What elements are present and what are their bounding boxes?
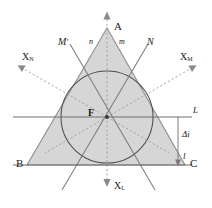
figure-canvas: [0, 0, 212, 208]
label-axis-xl: XL: [114, 181, 125, 191]
label-center-f: F: [88, 108, 94, 118]
label-axis-xl-subscript: L: [121, 185, 125, 191]
label-vertex-a: A: [114, 21, 122, 32]
label-line-n-small: n: [89, 38, 93, 46]
label-line-m-small: m: [119, 38, 125, 46]
label-axis-l-bottom: l: [183, 152, 186, 161]
label-line-n-capital: N: [147, 37, 154, 47]
arrowhead-up-icon: [103, 12, 110, 20]
geometric-diagram: A B C F n m M′ N L l Δi XN XM XL: [0, 0, 212, 208]
label-axis-L-top: L: [193, 106, 198, 115]
arrowhead-down-xl-icon: [103, 179, 110, 187]
label-line-m-prime-mark: ′: [66, 37, 68, 47]
label-axis-xm: XM: [180, 52, 193, 62]
arrowhead-xm-icon: [188, 65, 196, 72]
triangle-abc: [27, 28, 185, 165]
arrowhead-xn-icon: [18, 65, 26, 72]
label-axis-xn: XN: [22, 52, 34, 62]
label-axis-xm-subscript: M: [187, 56, 192, 62]
center-point-f: [105, 115, 109, 119]
label-axis-xn-subscript: N: [29, 56, 33, 62]
label-vertex-c: C: [190, 158, 197, 169]
label-line-m-prime: M′: [58, 37, 68, 47]
label-delta-i: Δi: [182, 130, 190, 139]
label-vertex-b: B: [16, 158, 23, 169]
